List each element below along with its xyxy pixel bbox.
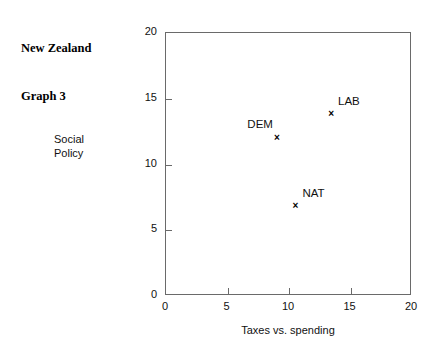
y-tick-mark	[166, 165, 172, 166]
x-tick-label: 20	[391, 300, 431, 312]
data-point-label: LAB	[338, 95, 360, 107]
data-point-marker: ×	[272, 133, 281, 142]
y-tick-label: 5	[117, 222, 157, 234]
y-tick-label: 20	[117, 25, 157, 37]
chart-title: New Zealand Graph 3	[21, 8, 92, 136]
data-point-label: NAT	[302, 187, 324, 199]
x-tick-mark	[289, 288, 290, 294]
y-tick-mark	[166, 99, 172, 100]
x-tick-label-group: 05101520	[0, 300, 436, 320]
x-tick-mark	[351, 288, 352, 294]
data-point-marker: ×	[291, 201, 300, 210]
x-tick-label: 10	[268, 300, 308, 312]
x-tick-mark	[228, 288, 229, 294]
chart-screenshot: New Zealand Graph 3 Social Policy 051015…	[0, 0, 436, 348]
data-point-marker: ×	[327, 109, 336, 118]
plot-area	[165, 32, 411, 295]
y-axis-label-line-2: Policy	[54, 146, 84, 160]
x-axis-label: Taxes vs. spending	[165, 324, 411, 336]
chart-title-line-2: Graph 3	[21, 88, 92, 104]
y-tick-label: 10	[117, 157, 157, 169]
chart-title-line-1: New Zealand	[21, 40, 92, 56]
x-tick-label: 0	[145, 300, 185, 312]
y-axis-label-line-1: Social	[54, 132, 84, 146]
y-tick-mark	[166, 230, 172, 231]
y-tick-label-group: 05101520	[113, 0, 157, 348]
y-tick-label: 15	[117, 91, 157, 103]
y-tick-label: 0	[117, 288, 157, 300]
data-point-label: DEM	[237, 118, 273, 130]
y-axis-label: Social Policy	[54, 132, 84, 160]
x-tick-label: 15	[330, 300, 370, 312]
x-tick-label: 5	[207, 300, 247, 312]
